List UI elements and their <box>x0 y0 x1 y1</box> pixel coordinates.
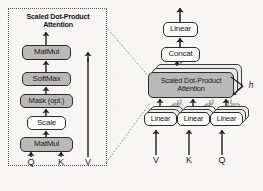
heads-count-label: h <box>246 80 256 90</box>
attention-architecture-diagram: Scaled Dot-Product Attention MatM <box>0 0 263 191</box>
concat-box: Concat <box>161 47 200 62</box>
linear-q-box: Linear <box>210 112 243 126</box>
right-input-v-label: V <box>150 155 162 165</box>
linear-output-box: Linear <box>163 22 198 37</box>
right-input-k-label: K <box>183 155 195 165</box>
concat-label: Concat <box>168 50 192 58</box>
linear-v-box: Linear <box>144 112 177 126</box>
linear-v-label: Linear <box>151 115 170 123</box>
linear-q-label: Linear <box>217 115 236 123</box>
right-input-q-label: Q <box>216 155 228 165</box>
linear-k-label: Linear <box>184 115 203 123</box>
linear-output-label: Linear <box>170 25 191 33</box>
linear-k-box: Linear <box>177 112 210 126</box>
